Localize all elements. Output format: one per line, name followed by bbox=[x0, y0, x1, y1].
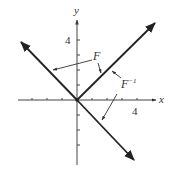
pointer-Finv-lower bbox=[102, 94, 117, 120]
pointer-F-right bbox=[98, 63, 101, 73]
origin-point bbox=[75, 98, 79, 102]
curve-shared-right-branch bbox=[77, 23, 155, 100]
y-axis bbox=[77, 20, 80, 165]
y-tick-label-4: 4 bbox=[65, 34, 71, 46]
pointer-Finv-upper bbox=[112, 71, 121, 78]
x-tick-label-4: 4 bbox=[132, 105, 138, 117]
curve-F-inverse-lower-branch bbox=[77, 100, 134, 160]
label-F: F bbox=[92, 49, 101, 63]
label-F-inverse-superscript: −1 bbox=[128, 77, 136, 85]
y-axis-label: y bbox=[73, 4, 79, 16]
x-axis bbox=[18, 98, 156, 100]
graph-canvas: y x 4 4 F F−1 bbox=[0, 0, 175, 170]
curve-F-left-branch bbox=[21, 42, 77, 100]
label-F-inverse: F−1 bbox=[120, 77, 137, 91]
x-axis-label: x bbox=[158, 93, 164, 105]
pointer-F-left bbox=[53, 60, 92, 70]
